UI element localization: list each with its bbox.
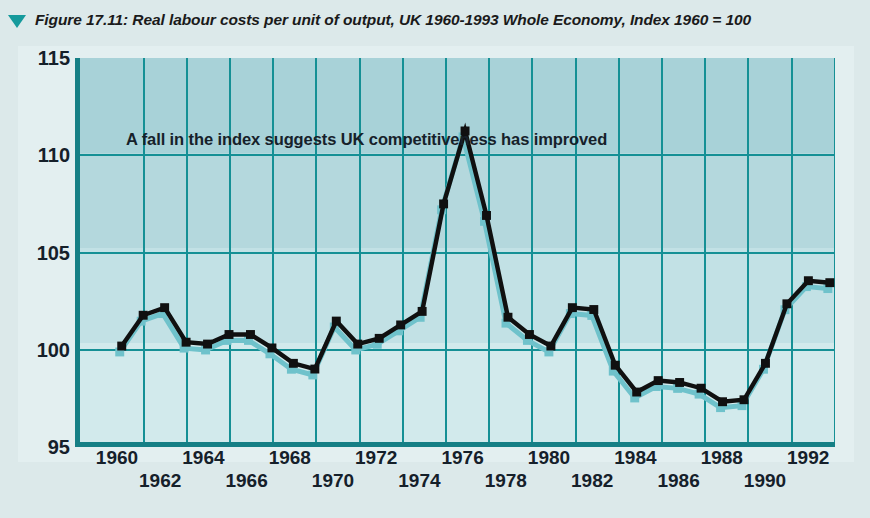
y-axis-tick-95: 95 [48,436,70,459]
x-axis-tick-1970: 1970 [312,470,354,492]
series-marker-1973 [396,320,405,329]
series-marker-1965 [225,330,234,339]
series-marker-1985 [654,376,663,385]
chart-container: 11511010510095 A fall in the index sugge… [18,46,854,462]
y-axis-tick-110: 110 [38,144,70,167]
series-marker-1969 [310,365,319,374]
x-axis-tick-1962: 1962 [139,470,181,492]
series-marker-1981 [568,303,577,312]
x-axis-tick-1990: 1990 [744,470,786,492]
series-marker-1990 [761,359,770,368]
series-marker-1989 [740,395,749,404]
series-marker-1964 [203,340,212,349]
series-marker-1988 [718,397,727,406]
figure-caption-text: Figure 17.11: Real labour costs per unit… [35,11,751,29]
series-marker-1983 [611,361,620,370]
series-marker-1992 [804,276,813,285]
series-marker-1975 [439,199,448,208]
series-marker-1987 [697,384,706,393]
x-axis-tick-1974: 1974 [398,470,440,492]
series-marker-1963 [182,338,191,347]
y-axis-tick-115: 115 [38,47,70,70]
series-layer [80,58,835,442]
series-marker-1971 [353,340,362,349]
y-axis: 11511010510095 [18,46,70,462]
series-marker-1978 [503,313,512,322]
triangle-down-icon [8,15,26,28]
series-marker-1980 [546,342,555,351]
series-marker-1962 [160,303,169,312]
series-marker-1970 [332,317,341,326]
series-marker-1972 [375,334,384,343]
y-axis-tick-100: 100 [37,338,70,361]
series-marker-1974 [418,307,427,316]
x-axis-tick-1978: 1978 [485,470,527,492]
chart-page: Figure 17.11: Real labour costs per unit… [0,0,870,518]
figure-caption: Figure 17.11: Real labour costs per unit… [0,0,870,40]
series-marker-1961 [139,311,148,320]
series-line [122,131,830,402]
series-marker-1982 [589,305,598,314]
series-marker-1960 [117,342,126,351]
series-marker-1984 [632,388,641,397]
series-marker-1977 [482,211,491,220]
series-line-shadow [120,137,828,408]
y-axis-tick-105: 105 [37,241,70,264]
series-marker-1968 [289,359,298,368]
x-axis-tick-1966: 1966 [225,470,267,492]
series-marker-1991 [782,299,791,308]
series-marker-1966 [246,330,255,339]
series-marker-1979 [525,330,534,339]
x-axis-tick-1986: 1986 [657,470,699,492]
plot-area [75,58,835,447]
series-marker-1967 [267,343,276,352]
chart-annotation: A fall in the index suggests UK competit… [126,130,607,149]
x-axis-tick-1982: 1982 [571,470,613,492]
series-marker-1993 [825,278,834,287]
series-marker-1986 [675,378,684,387]
